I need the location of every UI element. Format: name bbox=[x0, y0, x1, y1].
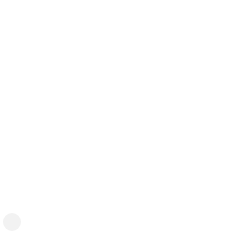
venn-diagram-canvas bbox=[0, 0, 241, 240]
watermark-blob bbox=[3, 213, 21, 231]
venn-diagram-figure bbox=[0, 0, 241, 240]
venn-circle-right[interactable] bbox=[86, 82, 232, 228]
